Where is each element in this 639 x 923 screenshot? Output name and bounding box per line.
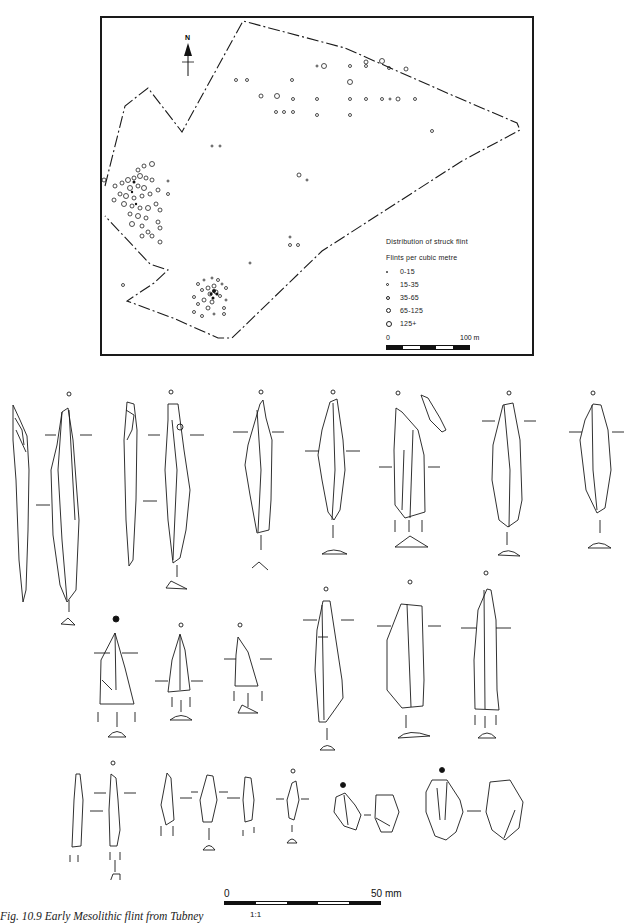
filled-marker-icon [113, 616, 119, 622]
large-circle-icon [386, 308, 391, 313]
microlith-4 [180, 775, 228, 850]
flint-blade-8 [303, 587, 354, 750]
scale-bar-graphic [224, 901, 381, 905]
microlith-1 [70, 774, 83, 862]
legend-row: 15-35 [386, 278, 526, 291]
microlith-2 [90, 761, 136, 880]
flint-blade-1 [13, 392, 92, 625]
flint-point-3 [224, 623, 272, 713]
scale-bar-graphic [386, 345, 470, 350]
legend-row: 35-65 [386, 291, 526, 304]
flint-blade-10 [461, 571, 511, 738]
figure-caption: Fig. 10.9 Early Mesolithic flint from Tu… [0, 910, 203, 922]
scale-ratio: 1:1 [250, 910, 261, 919]
flint-core-1 [334, 793, 399, 832]
microlith-3 [161, 773, 174, 836]
flint-core-2 [426, 780, 523, 840]
drawing-scale-bar: 0 50 mm [224, 888, 484, 918]
flint-point-2 [155, 623, 203, 720]
flint-blade-5 [379, 391, 446, 547]
map-legend: Distribution of struck flint Flints per … [386, 238, 526, 330]
smallest-dot-icon [386, 271, 388, 273]
microlith-6 [276, 769, 309, 843]
small-circle-icon [386, 283, 389, 286]
legend-subtitle: Flints per cubic metre [386, 254, 526, 261]
west-cluster-dense-core [131, 181, 137, 206]
flint-blade-6 [482, 391, 536, 556]
flint-blade-7 [569, 391, 624, 548]
legend-row: 65-125 [386, 304, 526, 317]
microlith-5 [227, 777, 254, 836]
legend-row: 125+ [386, 317, 526, 330]
filled-marker-icon [440, 768, 445, 773]
flint-point-1 [94, 633, 138, 737]
north-arrow-icon [182, 43, 194, 76]
south-flint-cluster [193, 277, 228, 318]
west-flint-cluster [102, 162, 162, 245]
legend-row: 0-15 [386, 265, 526, 278]
medium-circle-icon [386, 296, 390, 300]
flint-blade-9 [377, 580, 441, 738]
legend-title: Distribution of struck flint [386, 238, 526, 245]
svg-text:N: N [185, 34, 190, 41]
flint-drawings [0, 360, 639, 880]
filled-marker-icon [341, 783, 346, 788]
flint-blade-2 [124, 390, 204, 589]
flint-blade-4 [305, 390, 360, 554]
flint-blade-3 [233, 390, 284, 570]
distribution-map: N [100, 16, 534, 356]
largest-circle-icon [386, 321, 392, 327]
